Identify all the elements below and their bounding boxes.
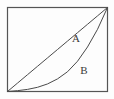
curve-label-b: B — [80, 64, 87, 76]
figure-container: A B — [0, 0, 114, 99]
plot-svg: A B — [0, 0, 114, 99]
curve-label-a: A — [72, 32, 80, 44]
